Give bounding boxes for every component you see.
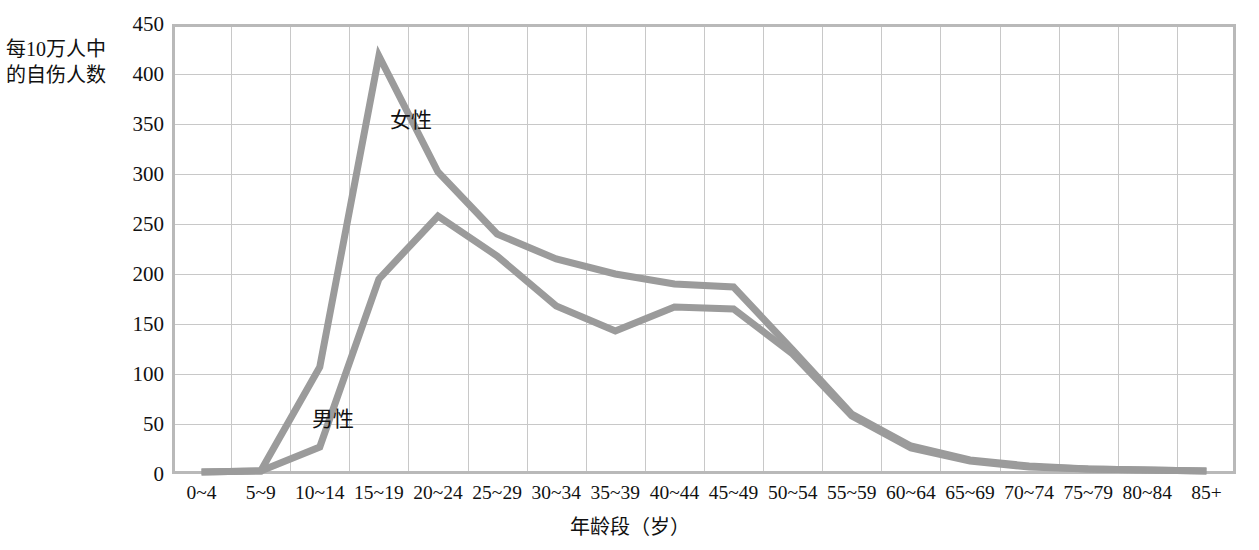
y-axis-tick-labels: 050100150200250300350400450 — [112, 0, 164, 550]
y-tick-label: 300 — [112, 164, 164, 185]
y-tick-label: 150 — [112, 314, 164, 335]
y-axis-title-line-1: 每10万人中 — [6, 36, 126, 62]
y-tick-label: 0 — [112, 464, 164, 485]
plot-area: 女性 男性 — [172, 24, 1236, 474]
y-axis-title: 每10万人中 的自伤人数 — [6, 36, 126, 88]
x-tick-label: 75~79 — [1063, 481, 1113, 505]
x-tick-label: 70~74 — [1004, 481, 1054, 505]
x-tick-label: 60~64 — [886, 481, 936, 505]
x-tick-label: 30~34 — [531, 481, 581, 505]
x-tick-label: 15~19 — [354, 481, 404, 505]
x-tick-label: 50~54 — [768, 481, 818, 505]
x-tick-label: 40~44 — [650, 481, 700, 505]
x-tick-label: 0~4 — [187, 481, 217, 505]
series-label-male: 男性 — [312, 409, 354, 430]
x-tick-label: 85+ — [1191, 481, 1222, 505]
y-tick-label: 200 — [112, 264, 164, 285]
y-tick-label: 100 — [112, 364, 164, 385]
x-axis-tick-labels: 0~45~910~1415~1920~2425~2930~3435~3940~4… — [172, 481, 1236, 511]
x-tick-label: 5~9 — [246, 481, 276, 505]
series-line-male — [202, 216, 1207, 472]
x-tick-label: 20~24 — [413, 481, 463, 505]
x-tick-label: 25~29 — [472, 481, 522, 505]
x-tick-label: 55~59 — [827, 481, 877, 505]
y-tick-label: 350 — [112, 114, 164, 135]
y-tick-label: 50 — [112, 414, 164, 435]
x-tick-label: 45~49 — [709, 481, 759, 505]
chart-figure: 每10万人中 的自伤人数 050100150200250300350400450… — [0, 0, 1259, 550]
x-axis-title: 年龄段（岁） — [0, 514, 1259, 540]
y-tick-label: 250 — [112, 214, 164, 235]
series-label-female: 女性 — [390, 110, 432, 131]
x-tick-label: 80~84 — [1123, 481, 1173, 505]
x-tick-label: 10~14 — [295, 481, 345, 505]
y-tick-label: 400 — [112, 64, 164, 85]
x-tick-label: 35~39 — [591, 481, 641, 505]
y-axis-title-line-2: 的自伤人数 — [6, 62, 126, 88]
x-tick-label: 65~69 — [945, 481, 995, 505]
y-tick-label: 450 — [112, 14, 164, 35]
